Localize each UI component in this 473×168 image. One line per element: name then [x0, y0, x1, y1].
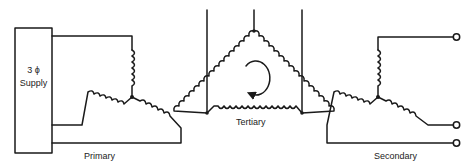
- terminal-c: [453, 140, 459, 146]
- supply-phase-label: 3 ϕ: [15, 64, 52, 77]
- terminal-a: [453, 34, 459, 40]
- secondary-label: Secondary: [374, 151, 417, 161]
- primary-winding: [15, 28, 181, 153]
- tertiary-label: Tertiary: [236, 117, 266, 127]
- circulation-arrow-icon: [246, 61, 270, 95]
- transformer-diagram: [0, 0, 473, 168]
- tertiary-winding: [174, 10, 334, 115]
- primary-label: Primary: [84, 151, 115, 161]
- terminal-b: [453, 122, 459, 128]
- supply-label: 3 ϕ Supply: [15, 64, 52, 90]
- secondary-winding: [327, 34, 460, 146]
- supply-text-label: Supply: [15, 77, 52, 90]
- supply-box: [15, 28, 52, 153]
